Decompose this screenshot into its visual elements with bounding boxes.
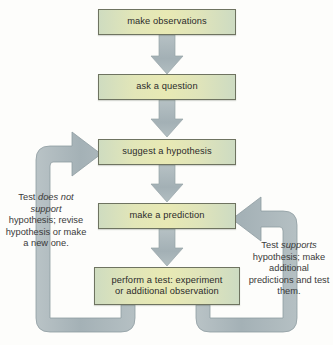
arrow-question-to-hypothesis — [151, 100, 183, 137]
arrow-prediction-to-test — [151, 229, 183, 266]
label-right-line1-italic: supports — [281, 240, 317, 250]
label-left-line2-italic: support — [30, 204, 61, 214]
step-box-perform-a-test[interactable]: perform a test: experiment or additional… — [94, 267, 240, 305]
step-label-ask-a-question: ask a question — [136, 81, 197, 92]
step-label-perform-a-test-line1: perform a test: experiment — [111, 275, 222, 286]
scientific-method-flowchart: make observations ask a question suggest… — [0, 0, 333, 345]
label-left-rest: hypothesis; revise hypothesis or make a … — [6, 215, 87, 248]
label-left-line1-italic: does not — [38, 192, 74, 202]
arrow-observations-to-question — [151, 35, 183, 74]
label-left-line1-plain: Test — [18, 192, 38, 202]
label-test-does-not-support: Test does not support hypothesis; revise… — [4, 192, 88, 250]
step-label-perform-a-test-line2: or additional observation — [115, 286, 219, 297]
step-box-make-a-prediction[interactable]: make a prediction — [98, 203, 236, 229]
arrow-hypothesis-to-prediction — [151, 165, 183, 202]
step-label-make-observations: make observations — [127, 16, 207, 27]
step-box-ask-a-question[interactable]: ask a question — [98, 74, 236, 100]
step-label-make-a-prediction: make a prediction — [129, 210, 204, 221]
step-label-suggest-a-hypothesis: suggest a hypothesis — [122, 146, 211, 157]
label-test-supports: Test supports hypothesis; make additiona… — [246, 240, 332, 298]
label-right-rest: hypothesis; make additional predictions … — [249, 252, 330, 297]
label-right-line1-plain: Test — [261, 240, 281, 250]
step-box-make-observations[interactable]: make observations — [98, 9, 236, 35]
step-box-suggest-a-hypothesis[interactable]: suggest a hypothesis — [98, 139, 236, 165]
